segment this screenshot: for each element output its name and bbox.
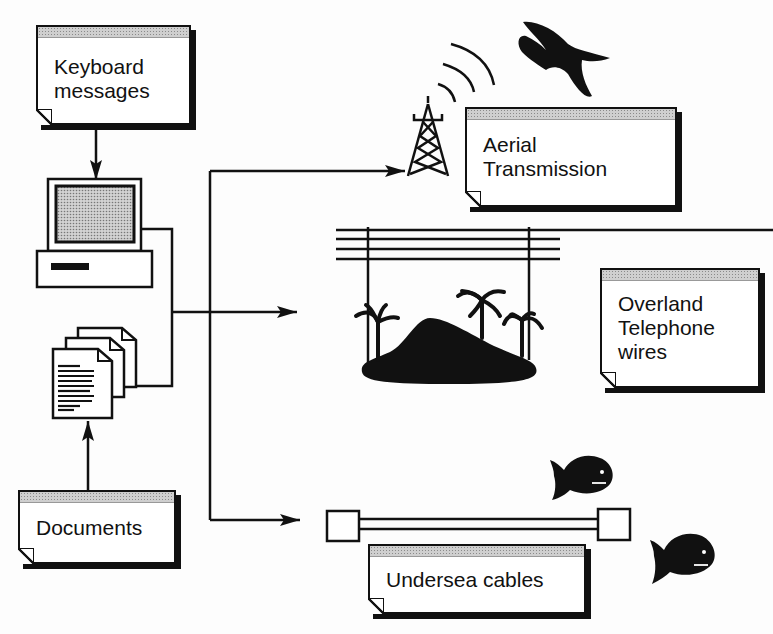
node-undersea-cables: Undersea cables	[368, 544, 586, 614]
computer-icon	[37, 179, 152, 287]
node-label: Aerial Transmission	[483, 133, 607, 181]
note-header-band	[467, 109, 675, 120]
page-curl-icon	[368, 598, 384, 614]
page-curl-icon	[465, 191, 481, 207]
cable-icon	[327, 509, 630, 541]
note-header-band	[38, 27, 189, 38]
note-header-band	[602, 270, 758, 281]
node-label: Documents	[36, 516, 142, 540]
island-icon	[362, 318, 537, 384]
fish-icon	[550, 456, 613, 500]
page-curl-icon	[18, 548, 34, 564]
node-keyboard-messages: Keyboard messages	[36, 25, 191, 125]
node-label: Undersea cables	[386, 568, 544, 592]
bird-icon	[519, 22, 610, 97]
node-label: Keyboard messages	[54, 55, 150, 103]
page-curl-icon	[600, 372, 616, 388]
page-curl-icon	[36, 109, 52, 125]
node-aerial-transmission: Aerial Transmission	[465, 107, 677, 207]
note-header-band	[20, 492, 174, 503]
note-header-band	[370, 546, 584, 557]
node-overland-telephone-wires: Overland Telephone wires	[600, 268, 760, 388]
node-documents: Documents	[18, 490, 176, 564]
fish-icon	[650, 534, 715, 584]
node-label: Overland Telephone wires	[618, 292, 715, 364]
radio-tower-icon	[408, 96, 448, 176]
signal-waves-icon	[438, 44, 494, 102]
document-stack-icon	[53, 328, 136, 418]
